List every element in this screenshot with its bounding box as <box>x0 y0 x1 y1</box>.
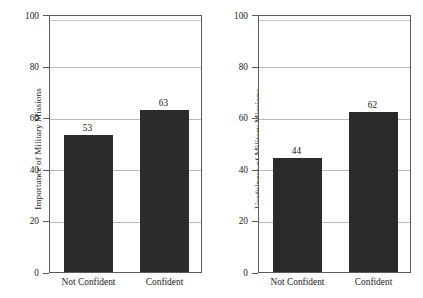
plot-area <box>49 15 202 273</box>
y-tick-label-100: 100 <box>212 12 248 21</box>
y-tick-label-20: 20 <box>212 217 248 226</box>
bar-confident <box>140 110 189 272</box>
y-tick-label-40: 40 <box>3 166 39 175</box>
y-tick-label-0: 0 <box>212 269 248 278</box>
y-tick-label-20: 20 <box>3 217 39 226</box>
gridline-inner-top <box>50 20 201 21</box>
bar-not-confident <box>64 135 113 272</box>
y-tick-label-80: 80 <box>3 63 39 72</box>
bar-confident <box>349 112 398 272</box>
y-tick-label-40: 40 <box>212 166 248 175</box>
bar-value-label-not-confident: 44 <box>272 147 321 156</box>
bar-value-label-not-confident: 53 <box>63 124 112 133</box>
figure-container: Importance of Military Missions 100 80 6… <box>0 0 423 298</box>
y-tick-mark-0 <box>252 273 258 274</box>
bar-value-label-confident: 62 <box>348 101 397 110</box>
y-tick-mark-0 <box>43 273 49 274</box>
y-tick-label-0: 0 <box>3 269 39 278</box>
chart-panel-usefulness: Usefulness of Military Missions 100 80 6… <box>211 0 422 298</box>
y-tick-label-60: 60 <box>212 114 248 123</box>
gridline-80 <box>50 67 201 68</box>
x-category-label-confident: Confident <box>115 278 214 287</box>
y-tick-label-80: 80 <box>212 63 248 72</box>
y-tick-label-100: 100 <box>3 12 39 21</box>
chart-panel-importance: Importance of Military Missions 100 80 6… <box>0 0 211 298</box>
plot-area <box>258 15 411 273</box>
x-category-label-confident: Confident <box>324 278 423 287</box>
bar-value-label-confident: 63 <box>139 99 188 108</box>
gridline-80 <box>259 67 410 68</box>
bar-not-confident <box>273 158 322 272</box>
y-tick-label-60: 60 <box>3 114 39 123</box>
gridline-inner-top <box>259 20 410 21</box>
